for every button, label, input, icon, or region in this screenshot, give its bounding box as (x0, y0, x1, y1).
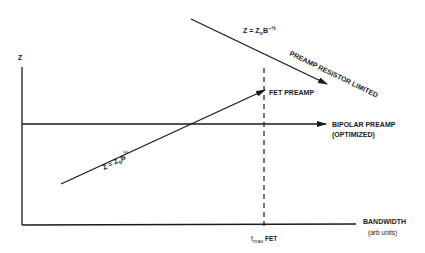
fmax-label: fmax FET (251, 235, 277, 244)
x-axis (22, 224, 356, 225)
noise-impedance-diagram: Z BANDWIDTH (arb units) fmax FET BIPOLAR… (0, 0, 425, 253)
bipolar-optimized-label: (OPTIMIZED) (332, 131, 375, 139)
fet-preamp-label: FET PREAMP (269, 89, 314, 96)
x-axis-label: BANDWIDTH (363, 218, 406, 225)
resistor-equation: Z = ZoB−½ (243, 25, 276, 36)
y-axis-label: Z (18, 54, 23, 61)
fet-equation: Z = ZoB½ (100, 148, 132, 172)
bipolar-preamp-label: BIPOLAR PREAMP (332, 121, 396, 128)
fet-preamp-line (61, 90, 265, 184)
x-axis-units: (arb units) (368, 229, 397, 237)
